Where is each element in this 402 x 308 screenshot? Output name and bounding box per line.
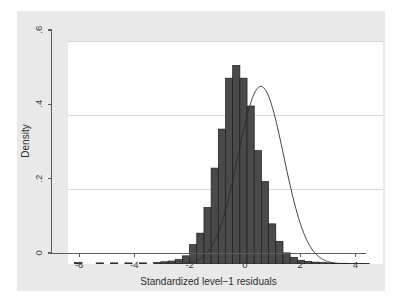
histogram-bar [96,263,103,264]
histogram-bar [204,208,211,264]
histogram-plot [68,41,383,264]
histogram-bar [111,263,118,264]
histogram-bar [161,262,168,264]
histogram-bar [269,224,276,264]
x-tick-label: -4 [122,260,146,270]
x-tick-label: 2 [288,260,312,270]
x-tick-label: -6 [67,260,91,270]
histogram-bar [319,263,326,264]
y-tick-label: .6 [34,21,44,39]
histogram-bar [247,106,254,264]
histogram-bar [218,129,225,264]
plot-region [68,41,383,264]
histogram-bar [312,262,319,264]
x-tick-label: -2 [178,260,202,270]
histogram-bar [154,263,161,264]
x-tick-label: 0 [233,260,257,270]
x-tick-label: 4 [343,260,367,270]
histogram-bar [211,168,218,264]
y-tick-label: 0 [34,244,44,262]
histogram-bars [75,66,370,264]
x-axis-title: Standardized level−1 residuals [51,277,366,287]
y-tick-marks [48,30,52,253]
graph-canvas: 0.2.4.6 -6-4-2024 Density [17,11,385,291]
y-tick-label: .4 [34,95,44,113]
histogram-bar [326,263,333,264]
y-tick-label: .2 [34,169,44,187]
histogram-bar [261,181,268,264]
y-axis-title: Density [21,81,31,201]
histogram-bar [240,78,247,264]
histogram-bar [276,241,283,264]
histogram-bar [254,151,261,264]
figure-container: 0.2.4.6 -6-4-2024 Density Standardized l… [0,0,402,308]
histogram-bar [226,78,233,264]
